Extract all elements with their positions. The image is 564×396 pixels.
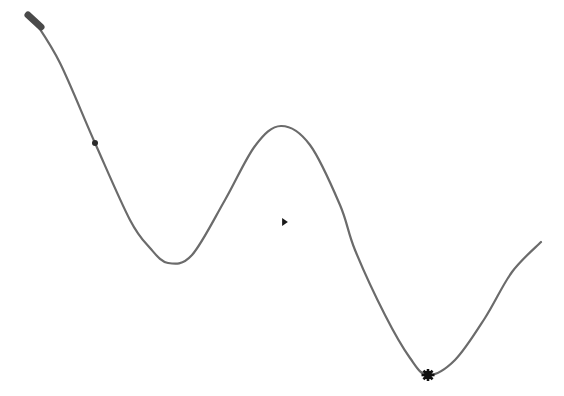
canvas-stage xyxy=(0,0,564,396)
star-marker[interactable] xyxy=(422,369,435,381)
canvas-background xyxy=(0,0,564,396)
dot-marker[interactable] xyxy=(92,140,98,146)
curve-plot xyxy=(0,0,564,396)
